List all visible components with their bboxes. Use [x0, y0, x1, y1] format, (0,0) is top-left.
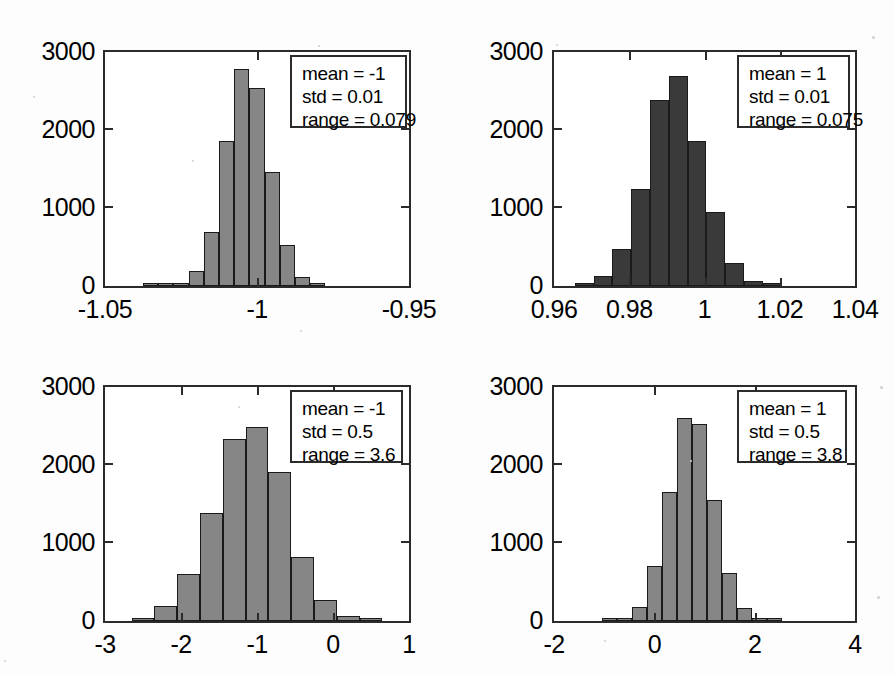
y-tick-label: 1000	[478, 530, 543, 555]
histogram-bar	[677, 418, 692, 621]
y-tick-mark	[554, 463, 562, 465]
x-tick-label: 4	[810, 632, 894, 657]
scan-speck	[604, 640, 606, 642]
histogram-bar	[707, 500, 722, 621]
scan-speck	[192, 160, 194, 162]
scan-speck	[880, 386, 883, 389]
scan-speck	[300, 330, 302, 332]
x-tick-label: 2	[710, 632, 800, 657]
histogram-bar	[617, 618, 632, 621]
histogram-bar	[632, 607, 647, 621]
y-tick-mark	[847, 541, 855, 543]
histogram-bar	[767, 618, 782, 621]
stats-annotation-box: mean = 1std = 0.5range = 3.8	[737, 390, 847, 463]
x-tick-mark	[654, 613, 656, 621]
histogram-bar	[692, 424, 707, 621]
y-tick-label: 3000	[478, 374, 543, 399]
scan-speck	[872, 36, 875, 39]
scan-speck	[556, 44, 558, 46]
histogram-bar	[662, 492, 677, 621]
scan-speck	[33, 96, 35, 98]
histogram-bar	[722, 573, 737, 621]
histogram-bar	[602, 618, 617, 621]
scan-speck	[318, 45, 320, 47]
y-tick-mark	[554, 541, 562, 543]
y-tick-label: 2000	[478, 452, 543, 477]
stats-range-text: range = 3.8	[749, 443, 836, 466]
scan-speck	[877, 596, 880, 599]
scan-speck	[238, 406, 240, 408]
histogram-bar	[737, 608, 752, 621]
histogram-panel-4: 0100020003000-2024mean = 1std = 0.5range…	[0, 0, 894, 675]
stats-mean-text: mean = 1	[749, 397, 836, 420]
x-tick-mark	[755, 613, 757, 621]
scan-speck	[4, 660, 6, 662]
x-tick-label: 0	[609, 632, 699, 657]
x-tick-label: -2	[509, 632, 599, 657]
stats-std-text: std = 0.5	[749, 420, 836, 443]
histogram-figure: 0100020003000-1.05-1-0.95mean = -1std = …	[0, 0, 894, 675]
scan-speck	[690, 460, 692, 462]
y-tick-mark	[847, 463, 855, 465]
y-tick-label: 0	[478, 608, 543, 633]
x-tick-mark	[654, 387, 656, 395]
